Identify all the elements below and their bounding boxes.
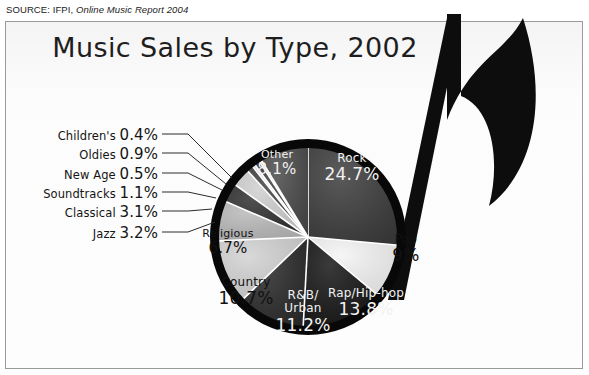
slice-label-other: Other8.1% [258,149,297,178]
callout-label-children-s: Children's 0.4% [58,125,158,144]
callout-label-soundtracks: Soundtracks 1.1% [43,183,158,202]
slice-label-rap-hip-hop: Rap/Hip-hop13.8% [328,287,404,319]
callout-label-oldies: Oldies 0.9% [79,144,158,163]
slice-label-country: Country10.7% [218,276,273,308]
slice-label-pop: Pop9% [392,233,419,265]
slice-label-religious: Religious6.7% [202,228,253,257]
callout-label-classical: Classical 3.1% [65,202,158,221]
slice-label-rock: Rock24.7% [324,152,379,184]
infographic-root: SOURCE: IFPI, Online Music Report 2004 M… [0,0,589,375]
pie-labels: Rock24.7%Pop9%Rap/Hip-hop13.8%R&B/Urban1… [0,0,589,375]
callout-label-new-age: New Age 0.5% [64,164,158,183]
callout-label-jazz: Jazz 3.2% [93,223,158,242]
slice-label-r-b-urban: R&B/Urban11.2% [275,289,330,335]
